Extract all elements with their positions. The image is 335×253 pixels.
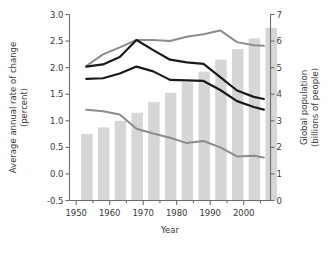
y-axis-title-right-units: (billions of people): [310, 68, 320, 147]
population-bar: [232, 49, 244, 200]
population-bar: [165, 93, 177, 201]
y-tick-label-right: 1: [277, 169, 282, 179]
y-tick-label-left: 1.0: [50, 116, 64, 126]
x-tick-label: 1990: [199, 208, 221, 218]
x-tick-label: 1970: [132, 208, 154, 218]
population-bar: [148, 102, 160, 200]
population-bar: [115, 121, 127, 201]
y-axis-title-left-units: (percent): [19, 88, 29, 127]
x-tick-label: 1960: [99, 208, 121, 218]
population-bar: [265, 28, 277, 201]
x-axis-title: Year: [160, 225, 180, 235]
x-tick-label: 2000: [233, 208, 255, 218]
population-bar: [81, 134, 93, 200]
y-tick-label-right: 6: [277, 36, 282, 46]
population-bar: [198, 72, 210, 201]
y-tick-label-right: 7: [277, 10, 282, 20]
x-tick-label: 1980: [166, 208, 188, 218]
y-tick-label-right: 0: [277, 196, 282, 206]
population-bar: [98, 127, 110, 200]
y-tick-label-left: 3.0: [50, 10, 64, 20]
figure-container: -0.50.00.51.01.52.02.53.0012345671950196…: [0, 0, 335, 253]
y-tick-label-left: 2.5: [50, 36, 64, 46]
y-tick-label-left: 0.5: [50, 142, 64, 152]
y-tick-label-right: 2: [277, 142, 282, 152]
y-axis-title-right: Global population: [299, 70, 309, 145]
y-tick-label-left: 1.5: [50, 89, 64, 99]
y-tick-label-right: 4: [277, 89, 282, 99]
y-tick-label-left: 2.0: [50, 63, 64, 73]
y-axis-title-left: Average annual rate of change: [8, 42, 18, 173]
y-tick-label-left: 0.0: [50, 169, 64, 179]
y-tick-label-left: -0.5: [47, 196, 64, 206]
y-tick-label-right: 5: [277, 63, 282, 73]
x-tick-label: 1950: [65, 208, 87, 218]
population-bar: [249, 38, 260, 200]
population-growth-chart: -0.50.00.51.01.52.02.53.0012345671950196…: [0, 0, 335, 253]
y-tick-label-right: 3: [277, 116, 282, 126]
